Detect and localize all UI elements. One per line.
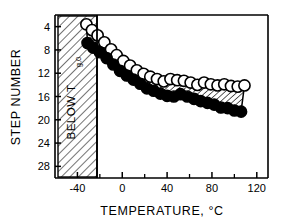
y-tick-label: 24 (38, 137, 50, 149)
x-tick-label: -40 (69, 182, 85, 194)
y-tick-label: 4 (44, 21, 50, 33)
x-tick-label: 80 (206, 182, 218, 194)
y-tick-label: 12 (38, 67, 50, 79)
x-tick-label: 120 (248, 182, 266, 194)
y-tick-label: 20 (38, 114, 50, 126)
y-tick-label: 16 (38, 91, 50, 103)
filled-circle-marker (235, 106, 246, 117)
below-tg-label: BELOW T (65, 84, 77, 139)
below-tg-subscript: g,0 (74, 57, 83, 67)
y-tick-label: 8 (44, 44, 50, 56)
x-tick-label: 40 (161, 182, 173, 194)
y-tick-label: 28 (38, 160, 50, 172)
step-number-vs-temperature-chart: -4004080120 481216202428 TEMPERATURE, °C… (0, 0, 287, 224)
x-axis-title: TEMPERATURE, °C (100, 204, 224, 218)
x-tick-label: 0 (119, 182, 125, 194)
open-circle-marker (239, 80, 250, 91)
chart-figure: -4004080120 481216202428 TEMPERATURE, °C… (0, 0, 287, 224)
y-axis-title: STEP NUMBER (9, 49, 23, 146)
